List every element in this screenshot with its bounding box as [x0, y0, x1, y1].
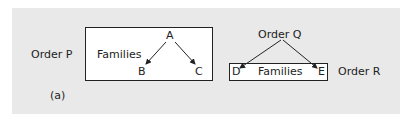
arrow-a-to-c [175, 42, 195, 64]
arrows-layer [0, 0, 406, 119]
arrow-q-to-e [283, 40, 317, 68]
arrow-q-to-d [240, 40, 281, 68]
arrow-a-to-b [146, 42, 166, 64]
